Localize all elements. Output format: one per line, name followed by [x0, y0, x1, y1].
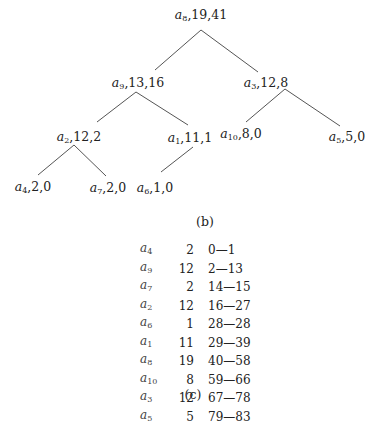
tree-node-a6: a6,1,0	[137, 181, 173, 199]
tree-edge	[155, 30, 201, 70]
tree-node-a7: a7,2,0	[90, 181, 126, 199]
tree-node-a3: a3,12,8	[244, 76, 288, 94]
tree-node-a4: a4,2,0	[15, 180, 51, 198]
table-row: a7214—15	[140, 278, 251, 297]
tree-edge	[285, 89, 340, 126]
table-row: a81940—58	[140, 352, 251, 371]
tree-edge	[201, 30, 258, 72]
tree-edge	[38, 145, 74, 175]
tree-edge	[136, 92, 188, 125]
tree-node-a2: a2,12,2	[57, 130, 101, 148]
tree-node-a5: a5,5,0	[329, 130, 365, 148]
table-row: a5579—83	[140, 408, 251, 425]
table-row: a6128—28	[140, 315, 251, 334]
tree-node-a1: a1,11,1	[168, 131, 212, 149]
tree-edge	[74, 145, 106, 176]
tree-edge	[97, 92, 136, 122]
caption-c: (c)	[185, 387, 202, 402]
tree-node-a9: a9,13,16	[112, 76, 164, 94]
tree-node-a8: a8,19,41	[175, 8, 227, 26]
tree-node-a10: a10,8,0	[220, 127, 262, 145]
table-row: a9122—13	[140, 260, 251, 279]
table-row: a21216—27	[140, 297, 251, 316]
table-row: a420—1	[140, 241, 251, 260]
tree-edge	[161, 147, 193, 172]
table-row: a11129—39	[140, 334, 251, 353]
caption-b: (b)	[196, 214, 214, 229]
